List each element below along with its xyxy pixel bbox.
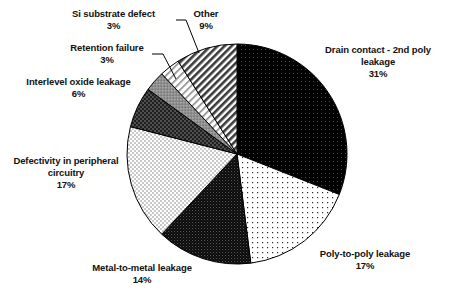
pie-label-percent: 9%	[178, 20, 234, 32]
pie-label-retention-failure: Retention failure 3%	[46, 42, 168, 66]
pie-label-percent: 3%	[46, 20, 181, 32]
pie-label-si-substrate-defect: Si substrate defect 3%	[46, 8, 181, 32]
pie-chart: Si substrate defect 3% Other 9% Retentio…	[0, 0, 450, 305]
pie-label-poly-to-poly: Poly-to-poly leakage 17%	[300, 248, 430, 272]
pie-label-text-2: circuitry	[0, 167, 132, 179]
pie-label-text: Metal-to-metal leakage	[92, 262, 192, 273]
pie-label-metal-to-metal: Metal-to-metal leakage 14%	[62, 262, 222, 286]
pie-label-text: Interlevel oxide leakage	[26, 76, 130, 87]
pie-label-other: Other 9%	[178, 8, 234, 32]
pie-label-defectivity-peripheral: Defectivity in peripheral circuitry 17%	[0, 155, 132, 191]
pie-label-drain-contact: Drain contact - 2nd poly leakage 31%	[312, 44, 444, 80]
pie-label-percent: 14%	[62, 274, 222, 286]
pie-label-percent: 6%	[6, 88, 151, 100]
pie-label-text-2: leakage	[312, 56, 444, 68]
pie-label-text: Defectivity in peripheral	[13, 155, 118, 166]
pie-label-text: Retention failure	[70, 42, 143, 53]
pie-label-percent: 3%	[46, 54, 168, 66]
pie-label-text: Other	[194, 8, 219, 19]
pie-label-text: Si substrate defect	[72, 8, 155, 19]
pie-label-interlevel-oxide: Interlevel oxide leakage 6%	[6, 76, 151, 100]
pie-label-text: Poly-to-poly leakage	[320, 248, 410, 259]
pie-label-percent: 31%	[312, 68, 444, 80]
pie-label-text: Drain contact - 2nd poly	[325, 44, 431, 55]
pie-label-percent: 17%	[300, 260, 430, 272]
pie-label-percent: 17%	[0, 179, 132, 191]
